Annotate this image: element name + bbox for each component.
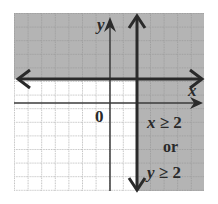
y-axis-label: y [95,15,105,34]
origin-label: 0 [95,107,104,126]
inequality-graph: y x 0 x ≥ 2 or y ≥ 2 [0,0,218,204]
x-axis-label: x [187,81,197,100]
inequality-x-label: x ≥ 2 [146,113,182,132]
connector-label: or [163,138,178,155]
inequality-y-label: y ≥ 2 [145,163,181,182]
